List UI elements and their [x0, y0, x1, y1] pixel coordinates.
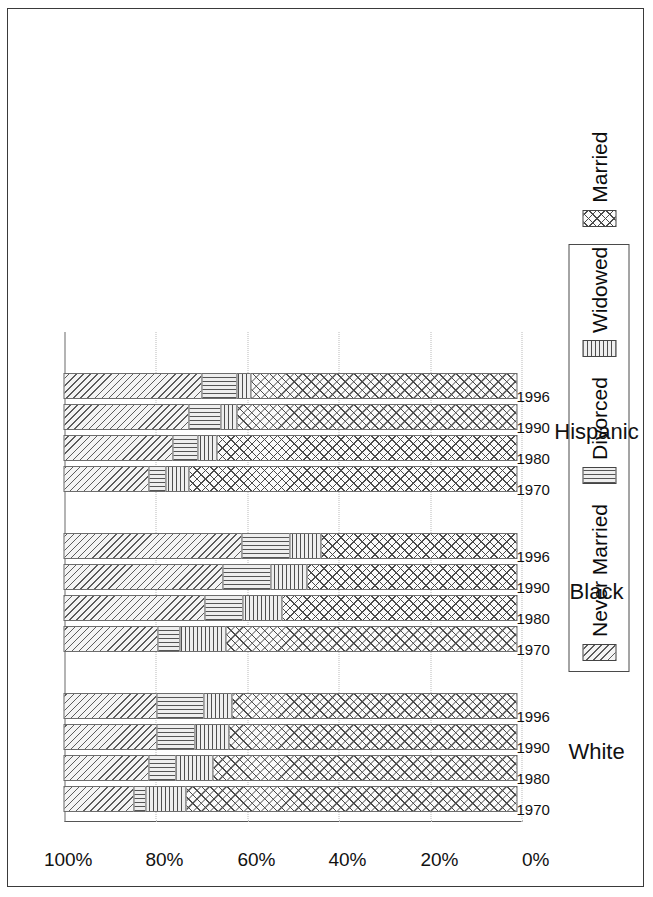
- segment-married[interactable]: [216, 435, 517, 461]
- segment-married[interactable]: [236, 404, 517, 430]
- bar-white-1970[interactable]: [64, 786, 521, 812]
- year-label-white-1990: 1990: [516, 739, 542, 756]
- chart-legend: Never Married Divorced Widowed Married: [568, 244, 629, 672]
- group-label-black: Black: [569, 579, 623, 605]
- figure-frame: Never Married Divorced Widowed Married 0…: [7, 8, 644, 887]
- year-label-hispanic-1996: 1996: [516, 388, 542, 405]
- segment-married[interactable]: [320, 533, 517, 559]
- bar-black-1970[interactable]: [64, 626, 521, 652]
- segment-married[interactable]: [188, 466, 517, 492]
- segment-widowed[interactable]: [236, 373, 251, 399]
- year-label-black-1970: 1970: [516, 641, 542, 658]
- segment-divorced[interactable]: [241, 533, 290, 559]
- value-tick-80: 80%: [127, 849, 183, 871]
- segment-widowed[interactable]: [270, 564, 307, 590]
- segment-divorced[interactable]: [148, 755, 176, 781]
- bar-white-1990[interactable]: [64, 724, 521, 750]
- value-tick-20: 20%: [402, 849, 458, 871]
- segment-divorced[interactable]: [157, 626, 180, 652]
- group-label-white: White: [568, 739, 624, 765]
- segment-married[interactable]: [231, 693, 517, 719]
- segment-never-married[interactable]: [63, 466, 149, 492]
- year-label-white-1996: 1996: [516, 708, 542, 725]
- value-tick-100: 100%: [36, 849, 92, 871]
- segment-widowed[interactable]: [203, 693, 232, 719]
- segment-divorced[interactable]: [222, 564, 270, 590]
- segment-never-married[interactable]: [63, 693, 157, 719]
- horizontal-lines-swatch-icon: [582, 466, 616, 483]
- segment-married[interactable]: [185, 786, 517, 812]
- segment-married[interactable]: [228, 724, 517, 750]
- segment-widowed[interactable]: [145, 786, 186, 812]
- segment-widowed[interactable]: [220, 404, 236, 430]
- segment-married[interactable]: [281, 595, 517, 621]
- segment-married[interactable]: [212, 755, 517, 781]
- cross-hatch-swatch-icon: [582, 209, 616, 226]
- year-label-hispanic-1990: 1990: [516, 419, 542, 436]
- legend-label: Never Married: [587, 503, 611, 636]
- segment-never-married[interactable]: [63, 435, 173, 461]
- segment-divorced[interactable]: [204, 595, 243, 621]
- segment-never-married[interactable]: [63, 595, 205, 621]
- segment-married[interactable]: [250, 373, 517, 399]
- segment-divorced[interactable]: [148, 466, 166, 492]
- bar-black-1996[interactable]: [64, 533, 521, 559]
- segment-divorced[interactable]: [156, 693, 204, 719]
- segment-never-married[interactable]: [63, 755, 149, 781]
- legend-item-married[interactable]: Married: [582, 131, 616, 226]
- segment-never-married[interactable]: [63, 564, 223, 590]
- legend-item-widowed[interactable]: Widowed: [582, 246, 616, 356]
- segment-divorced[interactable]: [172, 435, 198, 461]
- segment-widowed[interactable]: [165, 466, 190, 492]
- segment-never-married[interactable]: [63, 404, 189, 430]
- segment-divorced[interactable]: [201, 373, 236, 399]
- value-tick-0: 0%: [493, 849, 549, 871]
- plot-area: [64, 332, 521, 822]
- segment-widowed[interactable]: [194, 724, 229, 750]
- segment-widowed[interactable]: [175, 755, 212, 781]
- bar-white-1996[interactable]: [64, 693, 521, 719]
- segment-divorced[interactable]: [188, 404, 221, 430]
- year-label-hispanic-1980: 1980: [516, 450, 542, 467]
- bar-black-1980[interactable]: [64, 595, 521, 621]
- year-label-white-1970: 1970: [516, 801, 542, 818]
- segment-married[interactable]: [225, 626, 517, 652]
- bar-white-1980[interactable]: [64, 755, 521, 781]
- segment-never-married[interactable]: [63, 626, 158, 652]
- year-label-white-1980: 1980: [516, 770, 542, 787]
- bar-hispanic-1970[interactable]: [64, 466, 521, 492]
- segment-widowed[interactable]: [197, 435, 217, 461]
- diagonal-hatch-swatch-icon: [582, 644, 616, 661]
- segment-never-married[interactable]: [63, 786, 134, 812]
- group-label-hispanic: Hispanic: [554, 419, 638, 445]
- segment-widowed[interactable]: [179, 626, 226, 652]
- vertical-lines-swatch-icon: [582, 340, 616, 357]
- segment-divorced[interactable]: [156, 724, 195, 750]
- segment-never-married[interactable]: [63, 533, 242, 559]
- segment-divorced[interactable]: [133, 786, 146, 812]
- segment-married[interactable]: [306, 564, 517, 590]
- year-label-hispanic-1970: 1970: [516, 481, 542, 498]
- segment-widowed[interactable]: [289, 533, 321, 559]
- segment-widowed[interactable]: [242, 595, 282, 621]
- year-label-black-1996: 1996: [516, 548, 542, 565]
- bar-black-1990[interactable]: [64, 564, 521, 590]
- legend-label: Widowed: [587, 246, 611, 332]
- bar-hispanic-1996[interactable]: [64, 373, 521, 399]
- value-tick-60: 60%: [219, 849, 275, 871]
- bar-hispanic-1990[interactable]: [64, 404, 521, 430]
- value-tick-40: 40%: [310, 849, 366, 871]
- bar-hispanic-1980[interactable]: [64, 435, 521, 461]
- rotated-chart-stage: Never Married Divorced Widowed Married 0…: [8, 8, 643, 888]
- legend-label: Married: [587, 131, 611, 202]
- year-label-black-1990: 1990: [516, 579, 542, 596]
- segment-never-married[interactable]: [63, 724, 157, 750]
- year-label-black-1980: 1980: [516, 610, 542, 627]
- segment-never-married[interactable]: [63, 373, 202, 399]
